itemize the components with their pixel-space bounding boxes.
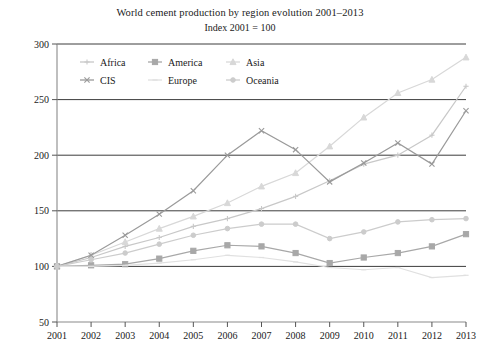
y-tick-label-300: 300 bbox=[34, 39, 49, 50]
legend-label-europe: Europe bbox=[168, 75, 197, 86]
series-america bbox=[54, 232, 468, 269]
datapoint-asia-2013 bbox=[463, 54, 469, 60]
x-tick-label-2005: 2005 bbox=[183, 330, 203, 341]
legend-label-oceania: Oceania bbox=[246, 75, 279, 86]
series-oceania bbox=[55, 216, 469, 268]
datapoint-america-2013 bbox=[463, 232, 468, 237]
datapoint-asia-2012 bbox=[429, 76, 435, 82]
datapoint-oceania-2007 bbox=[259, 222, 264, 227]
y-tick-label-50: 50 bbox=[39, 317, 49, 328]
y-tick-label-150: 150 bbox=[34, 205, 49, 216]
datapoint-america-2008 bbox=[293, 250, 298, 255]
series-line-asia bbox=[57, 57, 466, 266]
datapoint-africa-2006 bbox=[225, 216, 230, 221]
datapoint-america-2011 bbox=[395, 250, 400, 255]
y-axis: 30025020015010050 bbox=[34, 39, 57, 328]
x-tick-label-2010: 2010 bbox=[354, 330, 374, 341]
datapoint-america-2012 bbox=[429, 244, 434, 249]
line-chart-plot: 30025020015010050 2001200220032004200520… bbox=[0, 0, 480, 357]
x-tick-label-2007: 2007 bbox=[252, 330, 272, 341]
datapoint-oceania-2013 bbox=[464, 216, 469, 221]
datapoint-asia-2006 bbox=[224, 200, 230, 206]
legend-item-asia[interactable]: Asia bbox=[226, 57, 265, 68]
legend-item-america[interactable]: America bbox=[148, 57, 203, 68]
chart-figure: World cement production by region evolut… bbox=[0, 0, 480, 357]
datapoint-cis-2008 bbox=[293, 147, 298, 152]
series-africa bbox=[54, 84, 468, 269]
datapoint-america-2007 bbox=[259, 244, 264, 249]
legend-marker-america bbox=[152, 59, 157, 64]
chart-legend: AfricaAmericaAsiaCISEuropeOceania bbox=[80, 57, 279, 86]
datapoint-america-2006 bbox=[225, 243, 230, 248]
datapoint-oceania-2004 bbox=[157, 242, 162, 247]
datapoint-cis-2007 bbox=[259, 128, 264, 133]
datapoint-africa-2004 bbox=[157, 235, 162, 240]
datapoint-cis-2012 bbox=[429, 161, 434, 166]
legend-marker-oceania bbox=[231, 78, 236, 83]
y-tick-label-200: 200 bbox=[34, 150, 49, 161]
datapoint-cis-2011 bbox=[395, 140, 400, 145]
datapoint-america-2004 bbox=[157, 256, 162, 261]
legend-item-oceania[interactable]: Oceania bbox=[226, 75, 279, 86]
datapoint-oceania-2009 bbox=[327, 236, 332, 241]
x-tick-label-2012: 2012 bbox=[422, 330, 442, 341]
datapoint-oceania-2001 bbox=[55, 264, 60, 269]
datapoint-oceania-2003 bbox=[123, 251, 128, 256]
series-asia bbox=[54, 54, 469, 269]
x-tick-label-2009: 2009 bbox=[320, 330, 340, 341]
data-series-layer bbox=[54, 54, 469, 277]
x-tick-label-2001: 2001 bbox=[47, 330, 67, 341]
datapoint-asia-2010 bbox=[361, 114, 367, 120]
x-tick-label-2003: 2003 bbox=[115, 330, 135, 341]
x-tick-label-2006: 2006 bbox=[217, 330, 237, 341]
datapoint-oceania-2002 bbox=[89, 257, 94, 262]
legend-item-africa[interactable]: Africa bbox=[80, 57, 126, 68]
legend-label-america: America bbox=[168, 57, 203, 68]
legend-item-cis[interactable]: CIS bbox=[80, 75, 116, 86]
x-tick-label-2002: 2002 bbox=[81, 330, 101, 341]
y-tick-label-250: 250 bbox=[34, 94, 49, 105]
datapoint-oceania-2010 bbox=[361, 230, 366, 235]
x-axis: 2001200220032004200520062007200820092010… bbox=[47, 322, 476, 341]
datapoint-cis-2013 bbox=[463, 108, 468, 113]
legend-marker-africa bbox=[84, 59, 89, 64]
datapoint-africa-2011 bbox=[395, 153, 400, 158]
datapoint-oceania-2008 bbox=[293, 222, 298, 227]
x-tick-label-2008: 2008 bbox=[286, 330, 306, 341]
legend-item-europe[interactable]: Europe bbox=[148, 75, 197, 86]
datapoint-africa-2008 bbox=[293, 194, 298, 199]
legend-label-africa: Africa bbox=[100, 57, 126, 68]
datapoint-america-2009 bbox=[327, 260, 332, 265]
datapoint-oceania-2012 bbox=[430, 217, 435, 222]
datapoint-america-2005 bbox=[191, 248, 196, 253]
y-tick-label-100: 100 bbox=[34, 261, 49, 272]
datapoint-america-2003 bbox=[123, 262, 128, 267]
datapoint-cis-2003 bbox=[123, 233, 128, 238]
datapoint-oceania-2005 bbox=[191, 233, 196, 238]
datapoint-cis-2005 bbox=[191, 188, 196, 193]
x-tick-label-2013: 2013 bbox=[456, 330, 476, 341]
datapoint-cis-2004 bbox=[157, 212, 162, 217]
legend-label-cis: CIS bbox=[100, 75, 116, 86]
datapoint-america-2002 bbox=[88, 263, 93, 268]
datapoint-africa-2005 bbox=[191, 224, 196, 229]
x-tick-label-2011: 2011 bbox=[388, 330, 408, 341]
datapoint-america-2010 bbox=[361, 255, 366, 260]
legend-label-asia: Asia bbox=[246, 57, 265, 68]
datapoint-oceania-2006 bbox=[225, 226, 230, 231]
x-tick-label-2004: 2004 bbox=[149, 330, 169, 341]
datapoint-oceania-2011 bbox=[396, 220, 401, 225]
